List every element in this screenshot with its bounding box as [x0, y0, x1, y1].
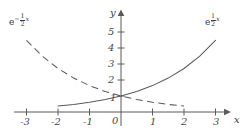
- y-tick-label-1: 1: [110, 93, 116, 103]
- curve-label-exp-positive: e12x: [205, 13, 220, 28]
- y-tick-label-5: 5: [108, 27, 114, 37]
- y-axis-arrow: [118, 10, 125, 17]
- x-axis-label: x: [234, 115, 240, 125]
- x-tick-label-2: 2: [181, 117, 187, 127]
- exponential-functions-figure: y x 0 -3 -2 -1 1 2 3 5 4 3 2 1 e−12x e12…: [0, 0, 244, 137]
- curve-exp-positive: [58, 40, 216, 106]
- x-tick-label-neg2: -2: [51, 117, 61, 127]
- x-axis-arrow: [224, 109, 231, 116]
- y-axis-label: y: [110, 8, 116, 18]
- x-tick-label-3: 3: [213, 117, 219, 127]
- x-tick-label-neg1: -1: [83, 117, 93, 127]
- y-tick-label-3: 3: [108, 59, 114, 69]
- curve-exp-negative: [27, 40, 185, 106]
- y-tick-label-2: 2: [108, 75, 114, 85]
- x-tick-label-1: 1: [150, 117, 156, 127]
- curve-label-base-solid: e: [205, 17, 210, 27]
- curve-label-exp-negative: e−12x: [9, 13, 29, 28]
- origin-tick-label: 0: [112, 116, 118, 126]
- y-tick-label-4: 4: [108, 43, 114, 53]
- curve-label-variable-dashed: x: [25, 15, 29, 23]
- curve-label-variable-solid: x: [216, 15, 220, 23]
- curve-label-sign-dashed: −: [14, 15, 19, 23]
- x-tick-label-neg3: -3: [20, 117, 30, 127]
